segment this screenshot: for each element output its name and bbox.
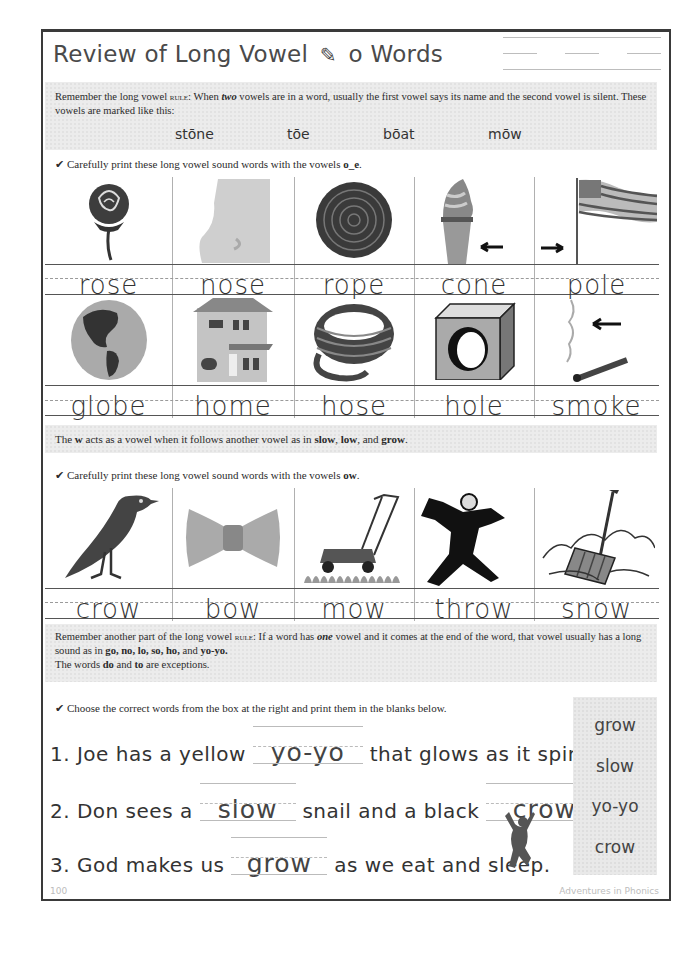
bow-tie-picture <box>172 488 294 588</box>
word-pole[interactable]: pole <box>534 272 659 298</box>
rule-text-2: Remember another part of the long vowel … <box>55 630 655 672</box>
word-snow[interactable]: snow <box>534 596 659 622</box>
title-text-after: o Words <box>349 41 444 67</box>
checkmark-icon: ✔ <box>55 702 64 714</box>
answer-blank-4[interactable]: grow <box>231 849 327 878</box>
answer-blank-1[interactable]: yo-yo <box>253 738 363 767</box>
ice-cream-cone-picture <box>414 177 534 265</box>
w-vowel-note: The w acts as a vowel when it follows an… <box>55 433 408 445</box>
word-rope[interactable]: rope <box>294 272 414 298</box>
sentence-1: 1. Joe has a yellow yo-yo that glows as … <box>50 738 599 767</box>
match-smoke-picture <box>534 296 659 384</box>
word-throw[interactable]: throw <box>414 596 534 622</box>
word-crow[interactable]: crow <box>45 596 172 622</box>
sentence-3: 3. God makes us grow as we eat and sleep… <box>50 849 551 878</box>
instruction-o-e: ✔Carefully print these long vowel sound … <box>55 158 362 171</box>
globe-picture <box>45 296 172 384</box>
word-choice-slow: slow <box>596 756 634 776</box>
page-number: 100 <box>50 886 67 896</box>
checkmark-icon: ✔ <box>55 469 64 481</box>
nose-picture <box>172 177 294 265</box>
lawn-mower-picture <box>294 488 414 588</box>
worksheet-page: Review of Long Vowel ✎ o Words Remember … <box>41 29 671 901</box>
marked-example-stone: stōne <box>175 126 214 142</box>
crow-bird-picture <box>45 488 172 588</box>
snow-shovel-picture <box>534 488 659 588</box>
word-choice-yo-yo: yo-yo <box>591 796 638 816</box>
word-smoke[interactable]: smoke <box>534 393 659 419</box>
word-bow[interactable]: bow <box>172 596 294 622</box>
marked-example-mow: mōw <box>488 126 522 142</box>
word-home[interactable]: home <box>172 393 294 419</box>
marked-example-boat: bōat <box>383 126 415 142</box>
word-nose[interactable]: nose <box>172 272 294 298</box>
name-writing-lines[interactable] <box>503 37 661 69</box>
rule-text-1: Remember the long vowel rule: When two v… <box>55 90 655 118</box>
word-cone[interactable]: cone <box>414 272 534 298</box>
picture-row-3 <box>45 488 659 588</box>
instruction-choose-words: ✔Choose the correct words from the box a… <box>55 702 447 715</box>
word-hose[interactable]: hose <box>294 393 414 419</box>
word-rose[interactable]: rose <box>45 272 172 298</box>
word-choice-grow: grow <box>594 715 636 735</box>
answer-blank-2[interactable]: slow <box>200 795 296 824</box>
page-title: Review of Long Vowel ✎ o Words <box>53 41 443 67</box>
garden-hose-picture <box>294 296 414 384</box>
word-choice-box: grow slow yo-yo crow <box>573 697 657 875</box>
instruction-ow: ✔Carefully print these long vowel sound … <box>55 469 359 482</box>
marked-example-toe: tōe <box>287 126 310 142</box>
picture-row-1 <box>45 177 659 265</box>
word-hole[interactable]: hole <box>414 393 534 419</box>
pitcher-picture <box>414 488 534 588</box>
title-text-before: Review of Long Vowel <box>53 41 308 67</box>
book-title: Adventures in Phonics <box>559 886 659 896</box>
box-with-hole-picture <box>414 296 534 384</box>
rope-picture <box>294 177 414 265</box>
rose-picture <box>45 177 172 265</box>
picture-row-2 <box>45 296 659 384</box>
word-mow[interactable]: mow <box>294 596 414 622</box>
checkmark-icon: ✔ <box>55 158 64 170</box>
house-picture <box>172 296 294 384</box>
flag-pole-picture <box>534 177 659 265</box>
word-globe[interactable]: globe <box>45 393 172 419</box>
word-choice-crow: crow <box>595 837 635 857</box>
jumping-child-picture <box>505 810 539 876</box>
pencil-icon: ✎ <box>320 43 337 67</box>
